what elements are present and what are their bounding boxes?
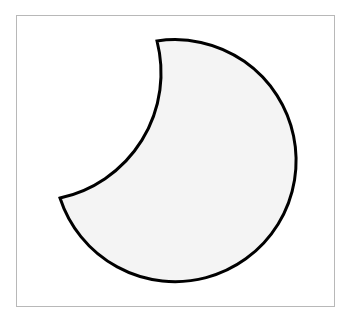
crescent-shape	[0, 0, 352, 327]
crescent-path	[60, 40, 296, 282]
